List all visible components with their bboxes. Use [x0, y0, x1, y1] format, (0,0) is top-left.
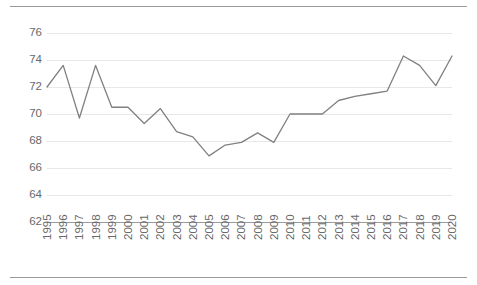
x-tick-label-2007: 2007	[236, 226, 248, 240]
x-tick-label-2009: 2009	[269, 226, 281, 240]
x-tick-label-2001: 2001	[139, 226, 151, 240]
x-tick-label-1999: 1999	[107, 226, 119, 240]
x-tick-label-2019: 2019	[431, 226, 443, 240]
x-tick-label-2000: 2000	[123, 226, 135, 240]
x-tick-label-2010: 2010	[285, 226, 297, 240]
x-tick-label-2013: 2013	[334, 226, 346, 240]
x-tick-label-2011: 2011	[301, 226, 313, 240]
x-tick-label-1998: 1998	[91, 226, 103, 240]
x-tick-label-2014: 2014	[350, 226, 362, 240]
x-tick-label-2015: 2015	[366, 226, 378, 240]
x-tick-label-1997: 1997	[74, 226, 86, 240]
x-tick-label-2008: 2008	[253, 226, 265, 240]
x-tick-label-2005: 2005	[204, 226, 216, 240]
x-axis-tick-labels: 1995199619971998199920002001200220032004…	[47, 226, 452, 282]
x-tick-label-2017: 2017	[398, 226, 410, 240]
x-tick-label-2016: 2016	[382, 226, 394, 240]
x-tick-label-2012: 2012	[317, 226, 329, 240]
x-tick-label-2003: 2003	[172, 226, 184, 240]
x-tick-label-1996: 1996	[58, 226, 70, 240]
x-tick-label-2004: 2004	[188, 226, 200, 240]
x-tick-label-2020: 2020	[447, 226, 459, 240]
x-tick-label-2018: 2018	[415, 226, 427, 240]
data-series-line	[47, 56, 452, 156]
x-tick-label-2006: 2006	[220, 226, 232, 240]
line-chart: 7674727068666462 19951996199719981999200…	[0, 0, 477, 285]
x-tick-label-2002: 2002	[155, 226, 167, 240]
x-tick-label-1995: 1995	[42, 226, 54, 240]
